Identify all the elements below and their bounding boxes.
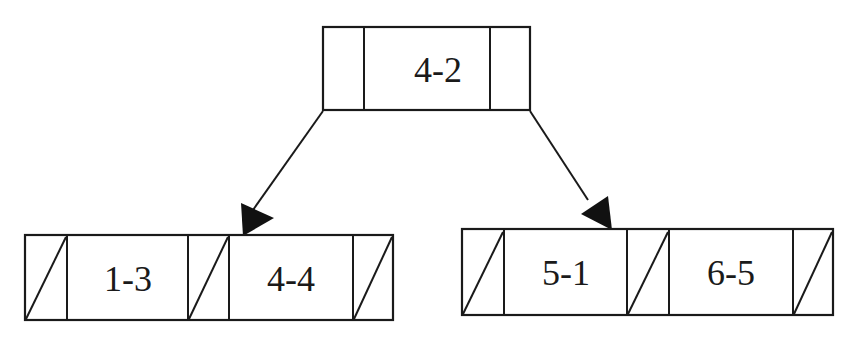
- arrowhead-icon: [581, 196, 612, 230]
- edge-line: [253, 111, 323, 210]
- child-node-right: 5-1 6-5: [462, 229, 833, 315]
- edge-root-to-right: [530, 111, 612, 230]
- edge-line: [530, 111, 588, 200]
- child-left-key-1: 4-4: [267, 259, 315, 299]
- child-node-left: 1-3 4-4: [25, 235, 393, 320]
- child-right-key-1: 6-5: [707, 253, 755, 293]
- edge-root-to-left: [241, 111, 323, 236]
- btree-diagram: 4-2 1-3 4-4 5-1 6-5: [0, 0, 849, 343]
- root-node: 4-2: [323, 27, 530, 110]
- child-right-key-0: 5-1: [542, 253, 590, 293]
- arrowhead-icon: [241, 203, 274, 236]
- root-key-0: 4-2: [414, 50, 462, 90]
- child-left-key-0: 1-3: [104, 259, 152, 299]
